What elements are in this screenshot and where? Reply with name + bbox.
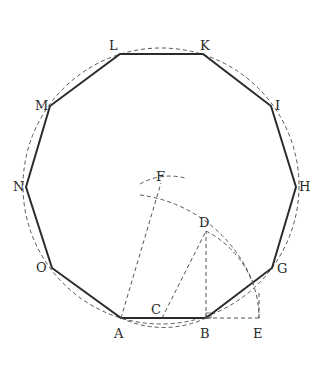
arc-AB-under [121, 318, 206, 327]
decagon-construction-figure: A B C D E F G H I K L M N O [0, 0, 332, 371]
segment-AF [121, 183, 161, 318]
arc-DE [206, 231, 259, 318]
label-O: O [36, 260, 47, 275]
decagon [26, 54, 296, 318]
arc-F [140, 195, 254, 285]
label-E: E [253, 326, 263, 341]
label-L: L [109, 38, 118, 53]
label-A: A [113, 326, 124, 341]
label-M: M [35, 98, 48, 113]
label-I: I [275, 98, 280, 113]
label-C: C [151, 302, 161, 317]
label-B: B [200, 326, 210, 341]
label-K: K [200, 38, 210, 53]
label-H: H [299, 179, 310, 194]
label-F: F [156, 169, 165, 184]
label-N: N [13, 179, 24, 194]
circumscribed-circle [23, 48, 299, 324]
label-D: D [199, 215, 209, 230]
label-G: G [277, 261, 287, 276]
segment-CD [162, 231, 206, 318]
